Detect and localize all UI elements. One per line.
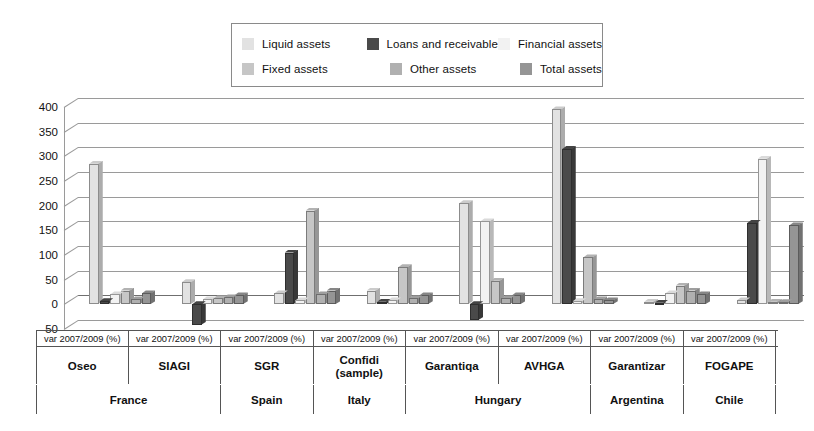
row-institution-labels: OseoSIAGISGRConfidi(sample)GarantiqaAVHG… <box>36 347 778 385</box>
legend-row-1: Liquid assets Loans and receivable Finan… <box>232 31 602 56</box>
var-label-cell-7: var 2007/2009 (%) <box>684 331 777 346</box>
legend-item-financial-assets: Financial assets <box>498 38 602 50</box>
var-label-cell-6: var 2007/2009 (%) <box>591 331 684 346</box>
bar-chart: -50050100150200250300350400 <box>0 95 814 335</box>
bar-group-oseo <box>64 95 157 335</box>
country-cell-hungary: Hungary <box>406 385 591 414</box>
country-cell-spain: Spain <box>221 385 314 414</box>
bar-total-assets-garantiqa <box>512 295 522 304</box>
y-axis-tick-350: 350 <box>14 126 58 138</box>
bar-loans-and-receivable-confidi-sample <box>377 302 387 304</box>
institution-label: Garantiqa <box>425 360 479 373</box>
bar-liquid-assets-garantizar <box>644 302 654 304</box>
bar-liquid-assets-fogape <box>737 300 747 304</box>
bar-loans-and-receivable-garantizar <box>655 303 665 305</box>
bar-other-assets-garantizar <box>686 291 696 305</box>
bar-other-assets-garantiqa <box>501 298 511 304</box>
bar-other-assets-fogape <box>779 302 789 304</box>
bar-financial-assets-garantizar <box>665 293 675 304</box>
y-axis-tick-150: 150 <box>14 224 58 236</box>
institution-label: AVHGA <box>524 360 565 373</box>
institution-label: (sample) <box>336 367 383 380</box>
institution-label: Garantizar <box>608 360 665 373</box>
bar-liquid-assets-avhga <box>552 109 562 304</box>
institution-cell-5: AVHGA <box>499 347 592 384</box>
bar-financial-assets-garantiqa <box>480 221 490 304</box>
country-cell-france: France <box>36 385 221 414</box>
bar-total-assets-oseo <box>142 293 152 304</box>
y-axis-tick-250: 250 <box>14 175 58 187</box>
bar-fixed-assets-sgr <box>306 211 316 305</box>
legend-item-fixed-assets: Fixed assets <box>242 63 390 75</box>
country-cell-italy: Italy <box>314 385 407 414</box>
legend-label-other-assets: Other assets <box>410 63 476 75</box>
chart-floor <box>64 304 78 329</box>
legend-row-2: Fixed assets Other assets Total assets <box>232 56 602 81</box>
y-axis-line <box>64 107 65 329</box>
row-variable-labels: var 2007/2009 (%)var 2007/2009 (%)var 20… <box>36 330 778 347</box>
institution-cell-4: Garantiqa <box>406 347 499 384</box>
bar-loans-and-receivable-fogape <box>747 223 757 304</box>
institution-label: Oseo <box>68 360 97 373</box>
y-axis-tick-300: 300 <box>14 150 58 162</box>
legend-label-total-assets: Total assets <box>540 63 602 75</box>
chart-legend: Liquid assets Loans and receivable Finan… <box>231 23 603 87</box>
bar-group-garantiqa <box>434 95 527 335</box>
row-country-labels: FranceSpainItalyHungaryArgentinaChile <box>36 385 778 415</box>
bar-liquid-assets-confidi-sample <box>367 291 377 305</box>
bar-total-assets-garantizar <box>697 294 707 304</box>
bar-group-sgr <box>249 95 342 335</box>
var-label-cell-1: var 2007/2009 (%) <box>129 331 222 346</box>
bars-layer <box>64 95 804 335</box>
institution-label: SIAGI <box>159 360 190 373</box>
bar-fixed-assets-confidi-sample <box>398 267 408 304</box>
legend-item-liquid-assets: Liquid assets <box>242 38 367 50</box>
institution-cell-2: SGR <box>221 347 314 384</box>
bar-financial-assets-avhga <box>573 301 583 304</box>
legend-swatch-financial-assets <box>498 38 510 50</box>
var-label-cell-4: var 2007/2009 (%) <box>406 331 499 346</box>
institution-cell-7: FOGAPE <box>684 347 777 384</box>
bar-liquid-assets-sgr <box>274 293 284 304</box>
y-axis-tick-200: 200 <box>14 200 58 212</box>
bar-fixed-assets-garantiqa <box>491 281 501 305</box>
institution-label: FOGAPE <box>705 360 754 373</box>
bar-financial-assets-sgr <box>295 300 305 304</box>
bar-other-assets-oseo <box>131 299 141 304</box>
institution-label: SGR <box>254 360 279 373</box>
legend-label-financial-assets: Financial assets <box>518 38 602 50</box>
bar-loans-and-receivable-garantiqa <box>470 304 480 320</box>
legend-swatch-other-assets <box>390 63 402 75</box>
institution-cell-1: SIAGI <box>129 347 222 384</box>
bar-other-assets-avhga <box>594 299 604 304</box>
bar-group-siagi <box>157 95 250 335</box>
y-axis: -50050100150200250300350400 <box>14 95 58 335</box>
institution-cell-3: Confidi(sample) <box>314 347 407 384</box>
institution-cell-0: Oseo <box>36 347 129 384</box>
bar-liquid-assets-garantiqa <box>459 203 469 304</box>
legend-swatch-total-assets <box>520 63 532 75</box>
bar-financial-assets-confidi-sample <box>388 300 398 304</box>
y-axis-tick-100: 100 <box>14 249 58 261</box>
category-label-table: var 2007/2009 (%)var 2007/2009 (%)var 20… <box>36 330 778 426</box>
bar-group-garantizar <box>619 95 712 335</box>
legend-item-loans-and-receivable: Loans and receivable <box>367 38 498 50</box>
bar-other-assets-confidi-sample <box>409 298 419 304</box>
y-axis-tick-50: 50 <box>14 274 58 286</box>
bar-loans-and-receivable-sgr <box>285 253 295 305</box>
bar-loans-and-receivable-avhga <box>562 149 572 304</box>
legend-label-loans-and-receivable: Loans and receivable <box>387 38 498 50</box>
bar-fixed-assets-avhga <box>583 257 593 304</box>
plot-area <box>64 95 804 335</box>
bar-loans-and-receivable-siagi <box>192 304 202 325</box>
bar-group-confidi-sample <box>342 95 435 335</box>
legend-label-fixed-assets: Fixed assets <box>262 63 328 75</box>
legend-swatch-liquid-assets <box>242 38 254 50</box>
bar-group-fogape <box>712 95 805 335</box>
y-axis-tick-0: 0 <box>14 298 58 310</box>
var-label-cell-5: var 2007/2009 (%) <box>499 331 592 346</box>
bar-total-assets-fogape <box>789 225 799 304</box>
legend-swatch-fixed-assets <box>242 63 254 75</box>
bar-group-avhga <box>527 95 620 335</box>
bar-financial-assets-fogape <box>758 159 768 305</box>
